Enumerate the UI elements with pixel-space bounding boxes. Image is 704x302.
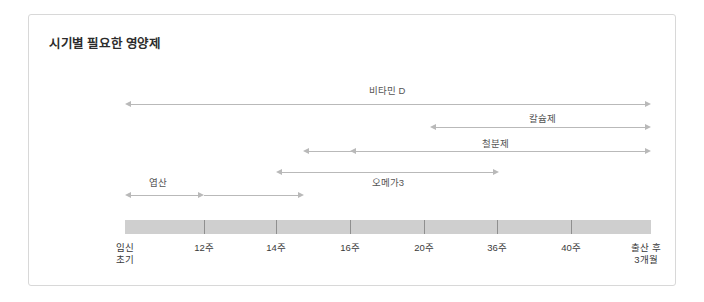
- timeline-tick: [350, 220, 351, 234]
- range-line-vitamin-d: [131, 104, 645, 105]
- timeline-diagram: 비타민 D칼슘제철분제오메가3엽산임신 초기12주14주16주20주36주40주…: [29, 15, 677, 287]
- arrow-right-icon: [645, 101, 651, 107]
- axis-tick-label: 40주: [561, 242, 581, 254]
- arrow-left-icon: [430, 124, 436, 130]
- range-label-iron: 철분제: [482, 136, 509, 150]
- arrow-left-icon: [276, 169, 282, 175]
- timeline-tick: [571, 220, 572, 234]
- arrow-left-icon: [125, 192, 131, 198]
- range-line-omega3: [282, 172, 493, 173]
- arrow-left-icon: [125, 101, 131, 107]
- arrow-left-icon: [303, 148, 309, 154]
- arrow-right-icon: [645, 148, 651, 154]
- timeline-tick: [276, 220, 277, 234]
- range-line-folic-acid: [131, 195, 198, 196]
- axis-tick-label: 출산 후 3개월: [631, 242, 661, 266]
- axis-tick-label: 36주: [487, 242, 507, 254]
- range-line-calcium: [436, 127, 645, 128]
- axis-tick-label: 임신 초기: [116, 242, 134, 266]
- timeline-tick: [204, 220, 205, 234]
- range-line-iron-secondary: [356, 151, 430, 152]
- arrow-right-icon: [298, 192, 304, 198]
- arrow-right-icon: [645, 124, 651, 130]
- range-label-calcium: 칼슘제: [529, 111, 556, 125]
- axis-tick-label: 20주: [414, 242, 434, 254]
- chart-card: 시기별 필요한 영양제 비타민 D칼슘제철분제오메가3엽산임신 초기12주14주…: [28, 14, 676, 286]
- range-label-omega3: 오메가3: [372, 175, 404, 189]
- axis-tick-label: 12주: [194, 242, 214, 254]
- range-label-folic-acid: 엽산: [149, 175, 167, 189]
- arrow-right-icon: [493, 169, 499, 175]
- axis-tick-label: 14주: [266, 242, 286, 254]
- arrow-left-icon: [350, 148, 356, 154]
- timeline-tick: [497, 220, 498, 234]
- range-label-vitamin-d: 비타민 D: [369, 83, 406, 97]
- timeline-tick: [424, 220, 425, 234]
- axis-tick-label: 16주: [340, 242, 360, 254]
- range-line-folic-acid-extended: [204, 195, 298, 196]
